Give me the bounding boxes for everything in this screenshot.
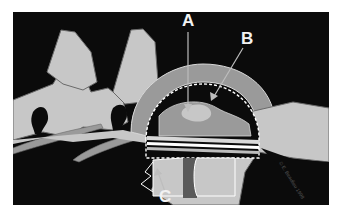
spine-illustration — [13, 12, 329, 205]
label-c: C — [159, 188, 171, 205]
illustration-frame: A B C © E. Beaulieu 1998 — [13, 12, 329, 205]
vertebral-body-right — [194, 158, 235, 196]
label-a: A — [182, 12, 194, 29]
label-b: B — [241, 30, 253, 47]
bone-spur — [141, 162, 153, 192]
